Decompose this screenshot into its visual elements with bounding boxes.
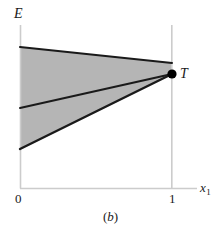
caption-close-paren: )	[114, 209, 118, 224]
x-tick-label-1: 1	[169, 192, 176, 205]
x-tick-label-0: 0	[15, 192, 22, 205]
y-axis-label: E	[14, 7, 23, 21]
point-T-marker	[167, 69, 176, 78]
x-axis-label: x1	[200, 181, 211, 197]
shaded-region	[20, 47, 172, 149]
figure-panel-b: E T x1 0 1 (b)	[0, 0, 221, 237]
x-axis-label-subscript: 1	[206, 187, 211, 197]
plot-area	[0, 0, 221, 237]
x-axis-label-base: x	[200, 180, 206, 195]
point-T-label: T	[180, 67, 188, 81]
figure-caption: (b)	[0, 210, 221, 223]
